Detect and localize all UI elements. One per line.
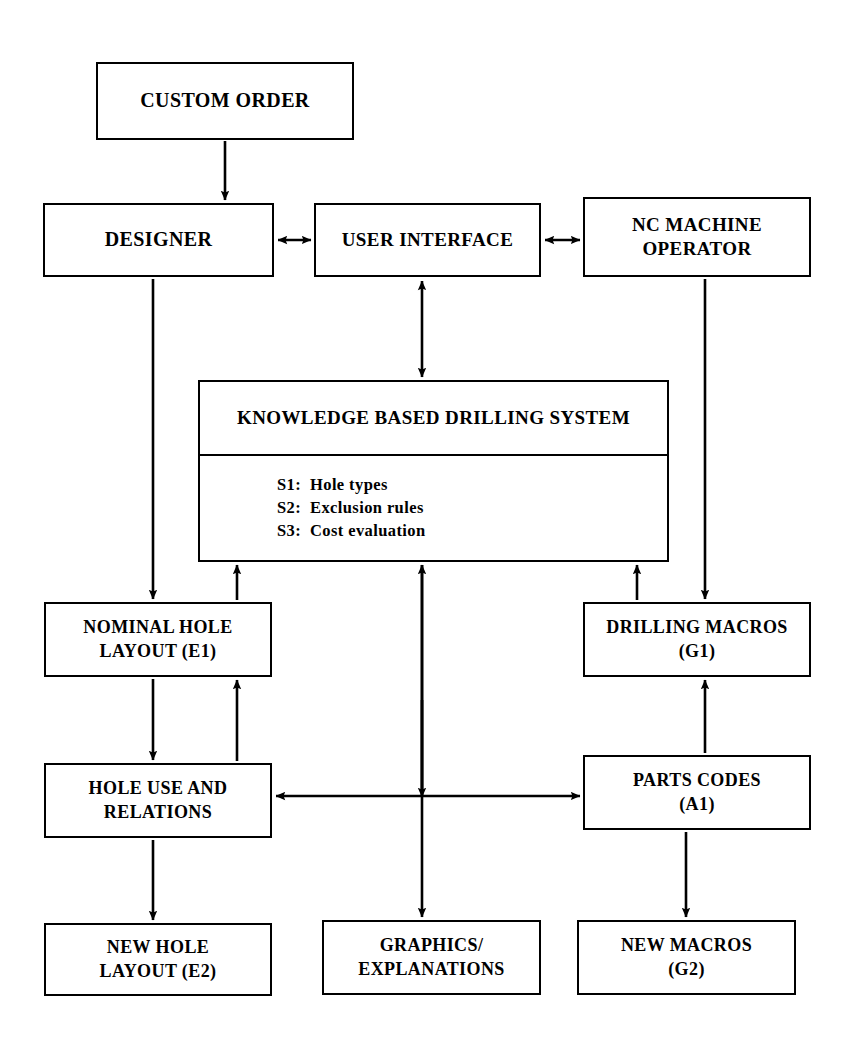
knowledge-system-item: S1: Hole types [268,474,426,497]
knowledge-system-item-key: S1: [268,474,310,497]
node-custom-order: CUSTOM ORDER [96,62,354,140]
node-hole-use-and-relations-label-line1: HOLE USE AND [89,777,228,800]
node-user-interface-label: USER INTERFACE [342,228,514,252]
node-new-macros-label-line2: (G2) [668,958,705,981]
node-nc-machine-operator: NC MACHINE OPERATOR [583,197,811,277]
knowledge-system-item-key: S2: [268,497,310,520]
knowledge-system-body: S1: Hole types S2: Exclusion rules S3: C… [200,456,667,542]
node-hole-use-and-relations-label-line2: RELATIONS [104,801,212,824]
node-nominal-hole-layout-label-line2: LAYOUT (E1) [100,640,217,663]
node-parts-codes-label-line1: PARTS CODES [633,769,761,792]
node-new-macros-label-line1: NEW MACROS [621,934,752,957]
node-nominal-hole-layout: NOMINAL HOLE LAYOUT (E1) [44,602,272,677]
knowledge-system-item-value: Exclusion rules [310,497,424,520]
node-nc-machine-operator-label-line2: OPERATOR [642,237,751,261]
flow-diagram: CUSTOM ORDER DESIGNER USER INTERFACE NC … [0,0,854,1045]
node-graphics-explanations-label-line2: EXPLANATIONS [358,958,505,981]
node-new-macros: NEW MACROS (G2) [577,920,796,995]
node-parts-codes-label-line2: (A1) [679,793,715,816]
node-graphics-explanations-label-line1: GRAPHICS/ [380,934,484,957]
node-nominal-hole-layout-label-line1: NOMINAL HOLE [83,616,232,639]
node-drilling-macros-label-line1: DRILLING MACROS [606,616,788,639]
node-new-hole-layout-label-line2: LAYOUT (E2) [100,960,217,983]
node-hole-use-and-relations: HOLE USE AND RELATIONS [44,763,272,838]
node-nc-machine-operator-label-line1: NC MACHINE [632,213,762,237]
knowledge-system-item: S3: Cost evaluation [268,520,426,543]
node-parts-codes: PARTS CODES (A1) [583,755,811,830]
knowledge-system-item-key: S3: [268,520,310,543]
node-designer-label: DESIGNER [105,227,213,253]
node-designer: DESIGNER [43,203,274,277]
node-custom-order-label: CUSTOM ORDER [140,88,309,114]
node-drilling-macros: DRILLING MACROS (G1) [583,602,811,677]
node-knowledge-based-drilling-system: KNOWLEDGE BASED DRILLING SYSTEM S1: Hole… [198,380,669,562]
node-new-hole-layout-label-line1: NEW HOLE [107,936,209,959]
knowledge-system-item: S2: Exclusion rules [268,497,426,520]
knowledge-system-title: KNOWLEDGE BASED DRILLING SYSTEM [200,382,667,456]
node-new-hole-layout: NEW HOLE LAYOUT (E2) [44,923,272,996]
knowledge-system-item-value: Cost evaluation [310,520,426,543]
node-user-interface: USER INTERFACE [314,203,541,277]
knowledge-system-item-list: S1: Hole types S2: Exclusion rules S3: C… [268,474,426,542]
knowledge-system-item-value: Hole types [310,474,388,497]
node-drilling-macros-label-line2: (G1) [679,640,716,663]
node-graphics-explanations: GRAPHICS/ EXPLANATIONS [322,920,541,995]
